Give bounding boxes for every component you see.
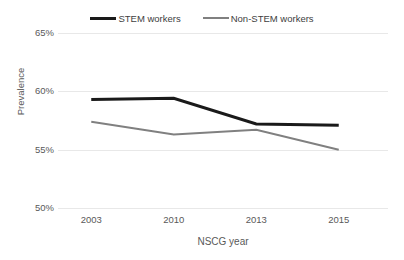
y-axis-tick-label: 65% (20, 28, 54, 38)
y-axis-tick-label: 60% (20, 86, 54, 96)
plot-area (58, 33, 388, 208)
y-axis-tick-label: 55% (20, 145, 54, 155)
series-line (91, 98, 339, 125)
x-axis-tick-label: 2003 (61, 214, 121, 226)
legend-item-non-stem-workers: Non-STEM workers (203, 13, 314, 24)
y-axis-tick-labels: 65%60%55%50% (14, 33, 54, 208)
x-axis-tick-label: 2010 (144, 214, 204, 226)
legend-label-non-stem-workers: Non-STEM workers (231, 13, 314, 24)
y-axis-tick-label: 50% (20, 203, 54, 213)
x-axis-tick-label: 2013 (226, 214, 286, 226)
legend-item-stem-workers: STEM workers (90, 13, 180, 24)
gridline (58, 208, 388, 209)
x-axis-tick-label: 2015 (309, 214, 369, 226)
x-axis-tick-labels: 2003201020132015 (58, 214, 388, 228)
x-axis-title: NSCG year (58, 236, 388, 247)
line-chart: STEM workers Non-STEM workers Prevalence… (0, 0, 404, 260)
chart-legend: STEM workers Non-STEM workers (0, 10, 404, 26)
legend-label-stem-workers: STEM workers (118, 13, 180, 24)
legend-swatch-non-stem-workers (203, 17, 229, 19)
series-layer (58, 33, 388, 208)
legend-swatch-stem-workers (90, 17, 116, 20)
